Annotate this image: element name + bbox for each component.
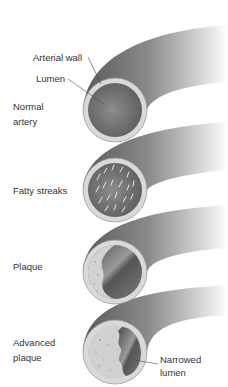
stage-label-fatty-streaks: Fatty streaks bbox=[13, 185, 67, 197]
callout-lumen: Lumen bbox=[36, 73, 65, 85]
stage-label-normal: Normal artery bbox=[13, 99, 44, 129]
stage-label-plaque: Plaque bbox=[13, 261, 43, 273]
cross-section-fatty-streaks bbox=[83, 158, 147, 222]
cross-section-plaque bbox=[83, 240, 147, 304]
callout-arterial-wall: Arterial wall bbox=[33, 52, 82, 64]
cross-section-advanced-plaque bbox=[83, 320, 147, 384]
callout-narrowed-lumen: Narrowed lumen bbox=[160, 353, 201, 379]
cross-section-normal bbox=[83, 78, 147, 142]
stage-label-advanced-plaque: Advanced plaque bbox=[13, 335, 55, 365]
